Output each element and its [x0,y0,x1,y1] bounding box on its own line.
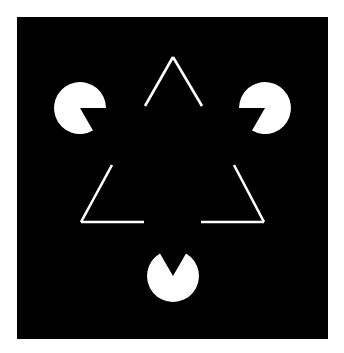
kanizsa-figure [0,0,344,353]
